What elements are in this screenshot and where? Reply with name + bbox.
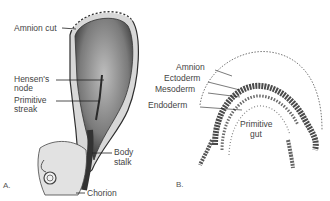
label-amnion-cut: Amnion cut <box>14 24 57 33</box>
panel-letter-a: A. <box>3 181 11 190</box>
label-chorion: Chorion <box>87 189 117 198</box>
panel-a-drawing <box>38 12 138 195</box>
label-body-stalk-1: Body <box>114 148 133 157</box>
panel-letter-b: B. <box>176 180 184 189</box>
label-body-stalk-2: stalk <box>114 158 131 167</box>
label-ectoderm: Ectoderm <box>164 74 200 83</box>
label-primitive-gut-2: gut <box>250 130 262 139</box>
panel-b-drawing <box>200 52 322 168</box>
label-primitive-gut-1: Primitive <box>240 120 273 129</box>
label-primitive-streak-2: streak <box>14 105 37 114</box>
embryo-figure: Amnion cut Hensen's node Primitive strea… <box>0 0 330 201</box>
label-amnion: Amnion <box>176 63 205 72</box>
label-endoderm: Endoderm <box>148 101 187 110</box>
label-hensens-node-2: node <box>14 84 33 93</box>
label-mesoderm: Mesoderm <box>155 85 195 94</box>
